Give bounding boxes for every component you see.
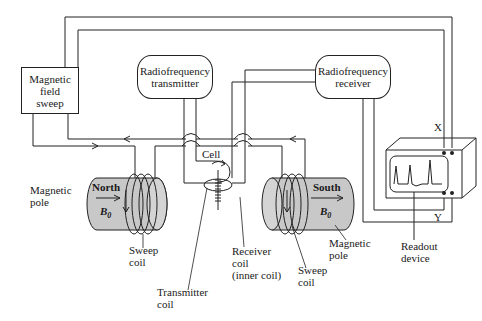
north-label: North [92,181,120,193]
transmitter-line-1: Radiofrequency [140,65,210,77]
label-line: (inner coil) [232,269,281,281]
crossing-bump-1 [182,134,200,140]
label-line: Sweep [298,264,327,276]
sweep-box-line-1: Magnetic [29,73,71,85]
sweep-coil-left-label: Sweep coil [129,244,158,268]
nmr-diagram: Magnetic field sweep Radiofrequency tran… [0,0,482,321]
label-line: Receiver [232,245,281,257]
right-coil-wire [248,146,282,178]
sweep-box-line-2: field [29,85,71,97]
label-line: Readout [401,240,438,252]
rf-transmitter-box: Radiofrequency transmitter [137,55,213,99]
label-line: device [401,252,438,264]
label-line: Transmitter [157,286,208,298]
sample-cell [204,160,232,210]
transmitter-coil-label: Transmitter coil [157,286,208,310]
y-terminal-label: Y [434,211,442,223]
receiver-lead-c [232,82,315,178]
sweep-coil-right-label: Sweep coil [298,264,327,288]
label-line: Magnetic [30,184,72,196]
label-line: coil [232,257,281,269]
magnetic-pole-right-label: Magnetic pole [329,237,371,261]
label-line: coil [298,276,327,288]
readout-device-label: Readout device [401,240,438,264]
label-line: pole [30,196,72,208]
receiver-coil-label: Receiver coil (inner coil) [232,245,281,281]
south-label: South [313,181,341,193]
rf-receiver-box: Radiofrequency receiver [315,55,391,99]
label-line: pole [329,249,371,261]
label-line: Sweep [129,244,158,256]
receiver-coil-leader [240,197,244,247]
transmitter-coil-leader [188,188,207,290]
transmitter-line-2: transmitter [140,77,210,89]
x-terminal-label: X [434,121,442,133]
north-b0-label: B0 [100,205,111,222]
sweep-return-wire-c [248,139,305,178]
crossing-bump-2 [234,134,252,140]
receiver-line-1: Radiofrequency [318,65,388,77]
left-coil-wire-a [155,146,186,178]
b-subscript: 0 [327,211,331,220]
label-line: Magnetic [329,237,371,249]
sweep-to-left-coil-wire [33,113,135,178]
label-line: coil [157,298,208,310]
sweep-return-wire-a [68,113,186,139]
sweep-box-line-3: sweep [29,97,71,109]
sweep-coil-right-leader [292,226,306,268]
receiver-line-2: receiver [318,77,388,89]
receiver-lead-a [232,70,315,183]
magnetic-field-sweep-box: Magnetic field sweep [21,67,79,114]
readout-device [386,138,476,240]
b-subscript: 0 [107,211,111,220]
magnetic-pole-left-label: Magnetic pole [30,184,72,208]
cell-label: Cell [202,148,220,160]
label-line: coil [129,256,158,268]
south-b0-label: B0 [320,205,331,222]
